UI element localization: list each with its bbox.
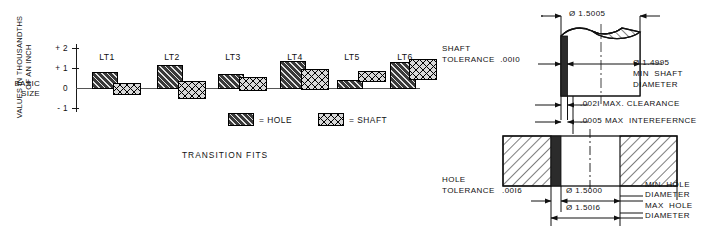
basic-size-label: BASIC SIZE: [0, 79, 40, 98]
min-hole-callout-line-2: DIAMETER: [645, 190, 690, 200]
bar-label-lt1: LT1: [87, 52, 127, 62]
bar-shaft-lt5: [358, 71, 386, 82]
transition-fits-chart: VALUES IN THOUSANDTHS OF AN INCH + 2 + 1…: [0, 0, 430, 229]
bar-shaft-lt3: [239, 77, 267, 91]
technical-figure: VALUES IN THOUSANDTHS OF AN INCH + 2 + 1…: [0, 0, 718, 229]
min-hole-callout-line-1: MIN HOLE: [645, 180, 690, 190]
max-interference-note: .0005 MAX INTEREFERNCE: [580, 116, 697, 126]
y-tick-mark-2: [72, 48, 79, 49]
min-hole-dimension: Ø 1.5000: [566, 186, 603, 196]
y-axis-line: [76, 44, 77, 112]
basic-size-line-1: BASIC: [14, 79, 40, 88]
min-shaft-diameter-line-1: MIN SHAFT: [633, 69, 683, 79]
max-hole-callout-line-1: MAX HOLE: [645, 201, 693, 211]
y-tick-mark-1: [72, 68, 79, 69]
y-tick-label-1: + 1: [42, 64, 68, 73]
chart-caption: TRANSITION FITS: [182, 150, 268, 160]
y-axis-title: VALUES IN THOUSANDTHS OF AN INCH: [15, 7, 33, 127]
bar-shaft-lt1: [113, 83, 141, 95]
max-clearance-note: .002I MAX. CLEARANCE: [580, 99, 680, 109]
shaft-tolerance-label-line-1: SHAFT: [442, 44, 470, 54]
max-hole-dimension: Ø 1.50I6: [566, 203, 600, 213]
hole-tolerance-label-line-2: TOLERANCE: [442, 186, 495, 196]
y-tick-label-neg1: - 1: [42, 104, 68, 113]
bar-shaft-lt2: [178, 81, 206, 99]
y-tick-mark-neg1: [72, 108, 79, 109]
y-axis-title-line-2: OF AN INCH: [24, 7, 33, 127]
shaft-top-dimension: Ø 1.5005: [569, 9, 606, 19]
basic-size-line-2: SIZE: [21, 89, 40, 98]
y-tick-label-0: 0: [42, 84, 68, 93]
max-hole-callout-line-2: DIAMETER: [645, 211, 690, 221]
bar-label-lt3: LT3: [213, 52, 253, 62]
min-shaft-diameter-line-2: DIAMETER: [633, 80, 678, 90]
bar-label-lt2: LT2: [152, 52, 192, 62]
y-axis-title-line-1: VALUES IN THOUSANDTHS: [15, 7, 24, 127]
legend-label-shaft: = SHAFT: [349, 115, 387, 125]
legend-swatch-hole: [228, 113, 254, 126]
fit-dimension-drawing: Ø 1.5005 SHAFT TOLERANCE .00I0 Ø 1.4995 …: [430, 0, 718, 229]
shaft-tolerance-label-line-2: TOLERANCE .00I0: [442, 55, 520, 65]
legend-label-hole: = HOLE: [259, 115, 292, 125]
y-tick-label-2: + 2: [42, 44, 68, 53]
min-shaft-diameter-value: Ø 1.4995: [633, 58, 670, 68]
bar-label-lt5: LT5: [332, 52, 372, 62]
hole-tolerance-label-line-1: HOLE: [442, 175, 466, 185]
hole-tolerance-value: .00I6: [502, 186, 522, 196]
legend-swatch-shaft: [318, 113, 344, 126]
bar-shaft-lt4: [301, 69, 329, 90]
